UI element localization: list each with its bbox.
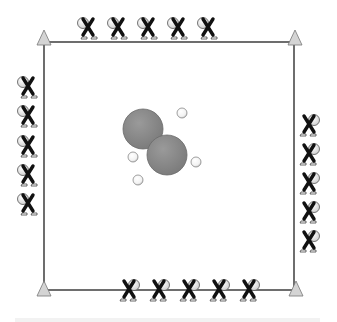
player-icon <box>18 77 38 99</box>
player-icon <box>18 136 38 158</box>
ball-icon <box>128 152 138 162</box>
player-icon <box>18 194 38 216</box>
cone-bottom-left-icon <box>37 281 51 296</box>
player-icon <box>300 231 320 253</box>
player-icon <box>168 18 188 40</box>
players-right <box>300 115 320 253</box>
player-icon <box>300 144 320 166</box>
player-icon <box>300 115 320 137</box>
footer-divider <box>15 318 320 322</box>
player-icon <box>138 18 158 40</box>
cone-top-left-icon <box>37 30 51 45</box>
players-left <box>18 77 38 216</box>
player-icon <box>300 202 320 224</box>
cone-bottom-right-icon <box>289 281 303 296</box>
player-icon <box>198 18 218 40</box>
big-circle-marker <box>147 135 187 175</box>
player-icon <box>18 106 38 128</box>
ball-icon <box>191 157 201 167</box>
player-icon <box>108 18 128 40</box>
ball-icon <box>133 175 143 185</box>
drill-diagram <box>0 0 337 322</box>
cone-top-right-icon <box>288 30 302 45</box>
ball-icon <box>177 108 187 118</box>
player-icon <box>18 165 38 187</box>
players-top <box>78 18 218 40</box>
player-icon <box>300 173 320 195</box>
player-icon <box>78 18 98 40</box>
